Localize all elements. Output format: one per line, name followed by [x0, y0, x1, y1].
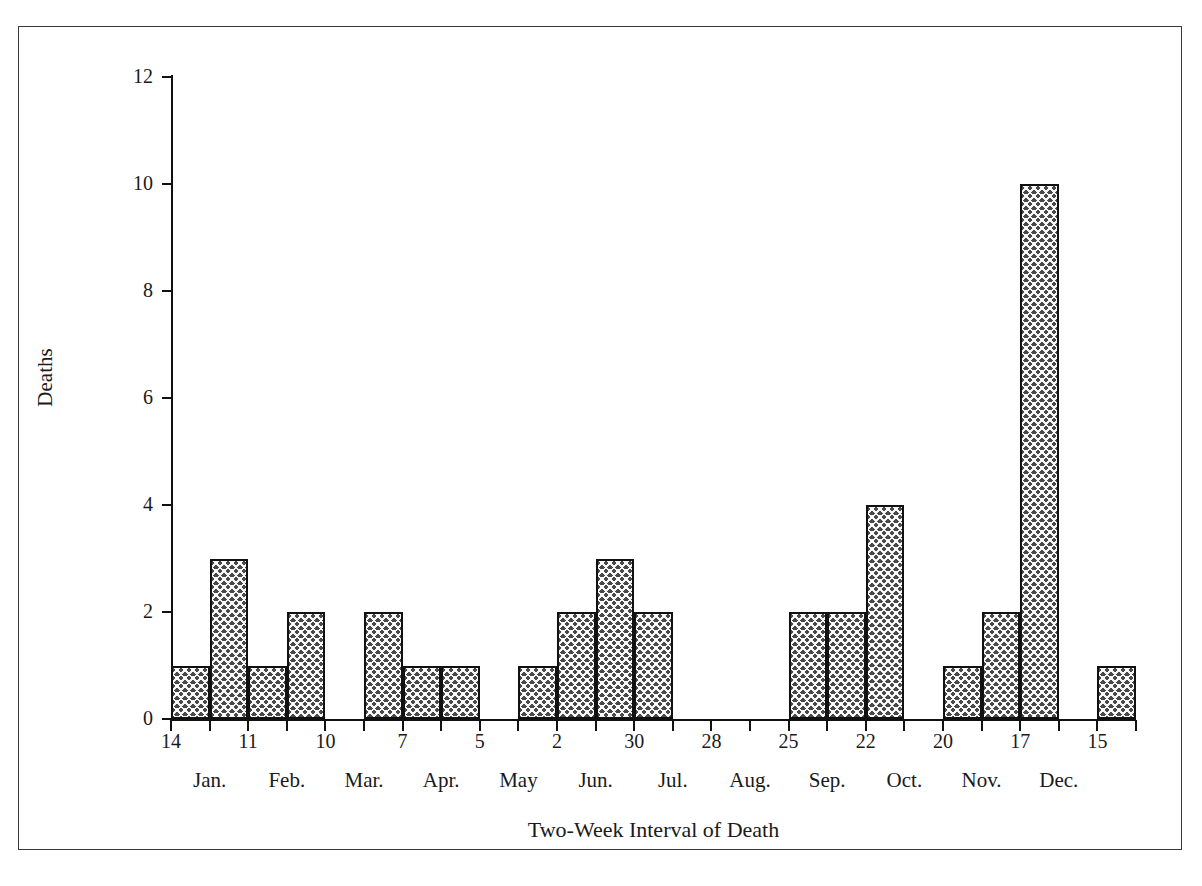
bar: [557, 612, 596, 719]
x-tick-mark-minor: [1135, 720, 1137, 731]
y-tick-label: 6: [113, 387, 153, 407]
x-tick-mark-minor: [749, 720, 751, 731]
x-axis-title: Two-Week Interval of Death: [171, 817, 1136, 843]
bar: [789, 612, 828, 719]
x-tick-mark-minor: [672, 720, 674, 731]
x-tick-label: 25: [766, 729, 812, 753]
x-tick-mark-minor: [903, 720, 905, 731]
y-axis-title: Deaths: [35, 308, 56, 448]
x-tick-label: 7: [380, 729, 426, 753]
x-tick-label: 30: [611, 729, 657, 753]
x-tick-label: 14: [148, 729, 194, 753]
bar: [827, 612, 866, 719]
x-tick-mark-minor: [517, 720, 519, 731]
y-tick-mark: [162, 290, 172, 292]
bar: [1097, 666, 1136, 720]
y-tick-mark: [162, 183, 172, 185]
bar: [943, 666, 982, 720]
y-tick-label: 10: [113, 173, 153, 193]
y-tick-mark: [162, 611, 172, 613]
x-axis-month-label: Dec.: [1014, 767, 1104, 793]
x-axis-line: [171, 719, 1136, 721]
bar: [1020, 184, 1059, 719]
bar: [287, 612, 326, 719]
x-tick-mark-minor: [209, 720, 211, 731]
bar: [403, 666, 442, 720]
y-tick-mark: [162, 504, 172, 506]
x-tick-label: 17: [997, 729, 1043, 753]
x-tick-label: 20: [920, 729, 966, 753]
bar: [866, 505, 905, 719]
plot-area: Deaths Two-Week Interval of Death 024681…: [19, 27, 1183, 851]
bar: [634, 612, 673, 719]
y-tick-mark: [162, 397, 172, 399]
bar: [596, 559, 635, 720]
x-tick-mark-minor: [440, 720, 442, 731]
y-tick-label: 12: [113, 66, 153, 86]
x-tick-mark-minor: [981, 720, 983, 731]
x-tick-label: 15: [1074, 729, 1120, 753]
bar: [982, 612, 1021, 719]
x-tick-mark-minor: [286, 720, 288, 731]
y-tick-label: 8: [113, 280, 153, 300]
x-tick-label: 10: [302, 729, 348, 753]
x-tick-mark-minor: [363, 720, 365, 731]
x-tick-mark-minor: [595, 720, 597, 731]
x-tick-mark-minor: [826, 720, 828, 731]
bar: [441, 666, 480, 720]
x-tick-label: 22: [843, 729, 889, 753]
y-tick-label: 0: [113, 708, 153, 728]
x-tick-label: 28: [688, 729, 734, 753]
bar: [248, 666, 287, 720]
y-tick-mark: [162, 76, 172, 78]
bar: [518, 666, 557, 720]
bar: [210, 559, 249, 720]
y-tick-label: 2: [113, 601, 153, 621]
x-tick-label: 2: [534, 729, 580, 753]
x-tick-label: 11: [225, 729, 271, 753]
figure-frame: Deaths Two-Week Interval of Death 024681…: [18, 26, 1182, 850]
x-tick-label: 5: [457, 729, 503, 753]
bar: [364, 612, 403, 719]
bar: [171, 666, 210, 720]
x-tick-mark-minor: [1058, 720, 1060, 731]
y-tick-label: 4: [113, 494, 153, 514]
